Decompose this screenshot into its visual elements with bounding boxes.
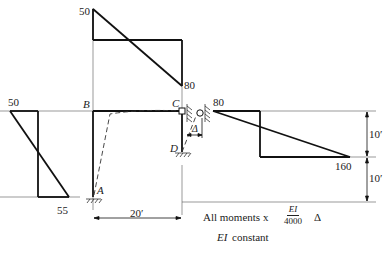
guide-lines [0,8,376,215]
ei-constant-text: constant [232,232,269,243]
right-moment-left-value: 80 [213,97,224,108]
right-moment-right-value: 160 [335,161,352,172]
left-moment-bottom-value: 55 [57,205,68,216]
node-c-label: C [172,98,179,109]
fraction-numerator: EI [287,205,300,216]
node-b-label: B [83,99,90,110]
delta-label: Δ [192,124,198,134]
node-d-label: D [170,143,178,154]
fixed-support-a [86,199,102,203]
top-moment-right-value: 80 [184,80,195,91]
ei-label: EI [217,232,227,243]
beam-moment-diagram [93,9,182,86]
node-a-label: A [97,185,104,196]
span-dimension-label: 20′ [130,208,143,219]
moment-note-delta: Δ [314,212,321,223]
column-cd-moment-diagram [213,111,350,157]
fraction-denominator: 4000 [284,216,302,226]
left-moment-top-value: 50 [8,97,19,108]
lower-height-label: 10′ [369,173,382,184]
moment-note-fraction: EI 4000 [284,205,302,226]
moment-note-prefix: All moments x [203,212,268,223]
frame-members [93,111,182,197]
column-ab-moment-diagram [10,111,69,197]
upper-height-label: 10′ [369,129,382,140]
height-dimensions [366,112,369,201]
top-moment-left-value: 50 [79,6,90,17]
